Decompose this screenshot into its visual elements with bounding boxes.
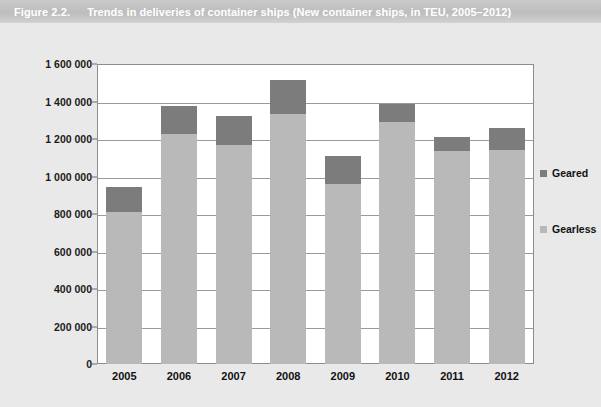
y-axis-tick-label: 1 400 000 <box>45 96 92 108</box>
bar-segment-gearless <box>325 184 361 364</box>
x-axis-label-2011: 2011 <box>440 370 464 382</box>
y-axis-tick-label: 200 000 <box>54 321 92 333</box>
bar-series-group <box>97 64 534 364</box>
y-axis-tick-label: 1 600 000 <box>45 58 92 70</box>
bar-segment-geared <box>434 137 470 151</box>
bar-2008 <box>270 80 306 364</box>
figure-title-bar: Figure 2.2. Trends in deliveries of cont… <box>0 0 601 23</box>
y-axis-labels: 1 600 0001 400 0001 200 0001 000 000800 … <box>0 64 92 364</box>
y-axis-tick-label: 800 000 <box>54 208 92 220</box>
bar-segment-geared <box>106 187 142 212</box>
bar-segment-gearless <box>434 151 470 364</box>
bar-2005 <box>106 187 142 364</box>
bar-2009 <box>325 156 361 364</box>
bar-segment-geared <box>325 156 361 184</box>
bar-segment-geared <box>216 116 252 145</box>
y-axis-tick-label: 400 000 <box>54 283 92 295</box>
figure-title: Trends in deliveries of container ships … <box>87 6 511 18</box>
y-axis-tick-label: 1 000 000 <box>45 171 92 183</box>
legend-item-gearless[interactable]: Gearless <box>540 223 596 235</box>
bar-2011 <box>434 137 470 364</box>
bar-segment-gearless <box>270 114 306 364</box>
x-axis-label-2008: 2008 <box>276 370 300 382</box>
y-axis-tick-label: 600 000 <box>54 246 92 258</box>
bar-2012 <box>489 128 525 364</box>
bar-segment-geared <box>379 104 415 122</box>
x-axis-label-2012: 2012 <box>494 370 518 382</box>
y-axis-tick-label: 0 <box>86 358 92 370</box>
bar-segment-geared <box>270 80 306 114</box>
bar-segment-gearless <box>216 145 252 364</box>
legend-swatch-icon <box>540 170 547 177</box>
bar-2006 <box>161 106 197 364</box>
bar-2010 <box>379 104 415 364</box>
legend-swatch-icon <box>540 226 547 233</box>
legend-label: Gearless <box>552 223 596 235</box>
bar-segment-gearless <box>161 134 197 364</box>
x-axis-label-2009: 2009 <box>331 370 355 382</box>
bar-segment-gearless <box>489 150 525 364</box>
legend-label: Geared <box>552 167 588 179</box>
bar-segment-gearless <box>379 122 415 364</box>
x-axis-label-2007: 2007 <box>221 370 245 382</box>
y-axis-tick-label: 1 200 000 <box>45 133 92 145</box>
legend-item-geared[interactable]: Geared <box>540 167 588 179</box>
figure-number: Figure 2.2. <box>14 6 70 18</box>
x-axis-label-2006: 2006 <box>167 370 191 382</box>
figure-body: 1 600 0001 400 0001 200 0001 000 000800 … <box>0 23 601 407</box>
bar-segment-geared <box>161 106 197 134</box>
x-axis-label-2005: 2005 <box>112 370 136 382</box>
bar-segment-geared <box>489 128 525 150</box>
bar-2007 <box>216 116 252 364</box>
x-axis-label-2010: 2010 <box>385 370 409 382</box>
bar-segment-gearless <box>106 212 142 364</box>
chart-legend: GearedGearless <box>540 64 601 364</box>
x-axis-labels: 20052006200720082009201020112012 <box>97 370 534 390</box>
